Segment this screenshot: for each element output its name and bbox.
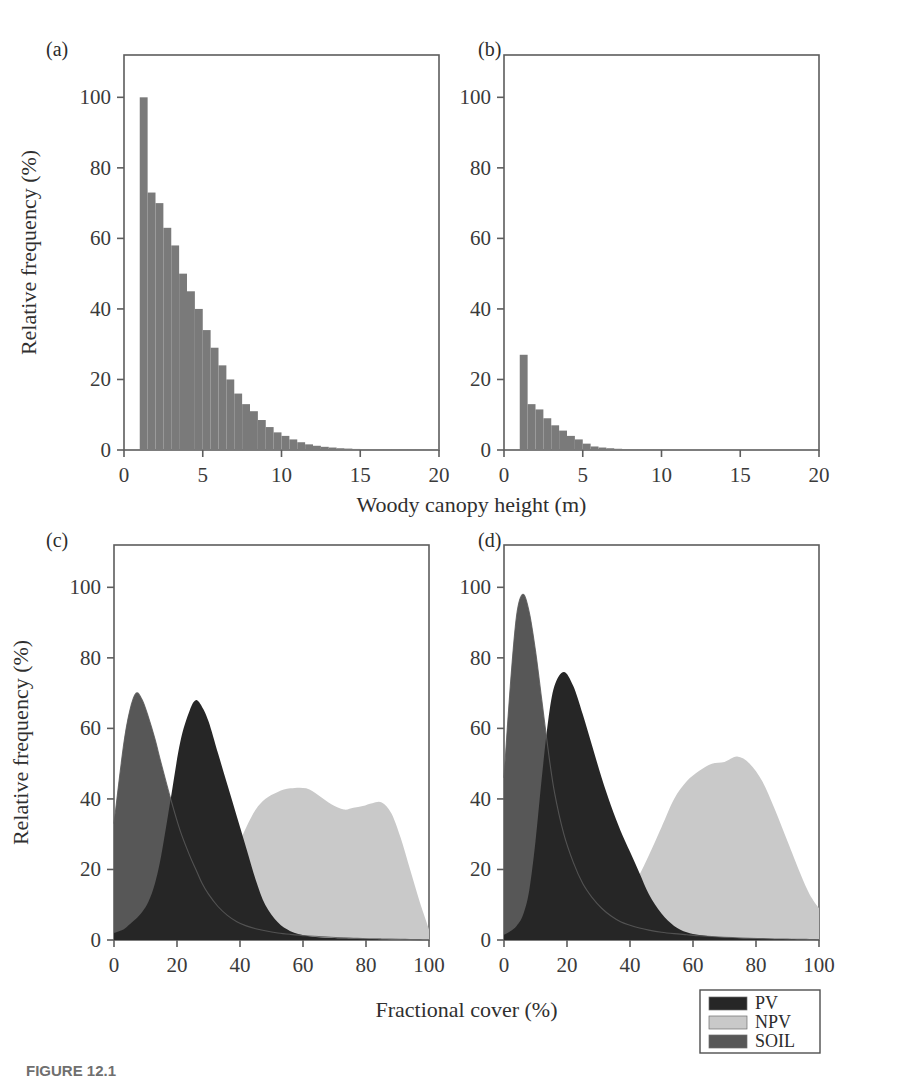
panel-label-c: (c) xyxy=(46,529,68,552)
legend: PVNPVSOIL xyxy=(700,990,820,1053)
histogram-bar xyxy=(536,409,544,450)
panel-label-a: (a) xyxy=(46,38,68,61)
y-tick-label: 0 xyxy=(481,438,492,462)
histogram-bar xyxy=(630,449,638,450)
histogram-bar xyxy=(622,449,630,450)
figure-svg: 02040608010005101520(a)02040608010005101… xyxy=(0,0,924,1078)
histogram-bar xyxy=(360,449,368,450)
y-tick-label: 20 xyxy=(90,367,111,391)
histogram-bar xyxy=(559,431,567,450)
histogram-bar xyxy=(606,448,614,450)
histogram-bar xyxy=(415,449,423,450)
x-tick-label: 80 xyxy=(356,953,377,977)
x-tick-label: 0 xyxy=(499,463,510,487)
histogram-bar xyxy=(305,444,313,450)
histogram-bar xyxy=(384,449,392,450)
x-axis-title-top: Woody canopy height (m) xyxy=(357,492,587,517)
y-tick-label: 20 xyxy=(80,857,101,881)
y-tick-label: 80 xyxy=(470,156,491,180)
histogram-bar xyxy=(258,420,266,450)
y-tick-label: 100 xyxy=(460,575,492,599)
y-tick-label: 100 xyxy=(460,85,492,109)
histogram-bar xyxy=(583,444,591,450)
histogram-bar xyxy=(646,449,654,450)
y-tick-label: 80 xyxy=(470,646,491,670)
histogram-bar xyxy=(274,432,282,450)
histogram-bar xyxy=(140,97,148,450)
y-tick-label: 60 xyxy=(470,716,491,740)
x-tick-label: 5 xyxy=(198,463,209,487)
histogram-bar xyxy=(203,330,211,450)
histogram-bar xyxy=(171,245,179,450)
x-tick-label: 20 xyxy=(429,463,450,487)
y-tick-label: 60 xyxy=(470,226,491,250)
histogram-bar xyxy=(156,203,164,450)
figure-caption: FIGURE 12.1 xyxy=(26,1062,116,1078)
x-tick-label: 20 xyxy=(557,953,578,977)
y-tick-label: 100 xyxy=(80,85,112,109)
y-tick-label: 20 xyxy=(470,857,491,881)
x-tick-label: 20 xyxy=(167,953,188,977)
histogram-bar xyxy=(234,394,242,450)
histogram-bar xyxy=(219,365,227,450)
x-tick-label: 10 xyxy=(651,463,672,487)
histogram-bar xyxy=(211,348,219,450)
y-tick-label: 0 xyxy=(91,928,102,952)
y-tick-label: 40 xyxy=(470,787,491,811)
histogram-bar xyxy=(195,309,203,450)
x-tick-label: 15 xyxy=(350,463,371,487)
y-tick-label: 40 xyxy=(470,297,491,321)
histogram-bar xyxy=(400,449,408,450)
x-tick-label: 5 xyxy=(578,463,589,487)
legend-label-pv: PV xyxy=(755,993,778,1013)
x-tick-label: 0 xyxy=(499,953,510,977)
histogram-bar xyxy=(654,449,662,450)
panel-label-b: (b) xyxy=(478,38,501,61)
y-axis-title-top: Relative frequency (%) xyxy=(16,150,41,355)
histogram-bar xyxy=(376,449,384,450)
histogram-bar xyxy=(543,418,551,450)
histogram-bar xyxy=(242,404,250,450)
histogram-bar xyxy=(368,449,376,450)
histogram-bar xyxy=(179,274,187,450)
histogram-bar xyxy=(250,411,258,450)
y-axis-title-bottom: Relative frequency (%) xyxy=(8,640,33,845)
y-tick-label: 0 xyxy=(481,928,492,952)
histogram-bar xyxy=(575,439,583,450)
legend-label-soil: SOIL xyxy=(755,1031,795,1051)
x-tick-label: 60 xyxy=(293,953,314,977)
y-tick-label: 60 xyxy=(90,226,111,250)
histogram-bar xyxy=(408,449,416,450)
legend-swatch-pv xyxy=(709,997,747,1010)
y-tick-label: 40 xyxy=(90,297,111,321)
histogram-bar xyxy=(329,448,337,450)
histogram-bar xyxy=(345,449,353,450)
histogram-bar xyxy=(289,439,297,450)
histogram-bar xyxy=(551,425,559,450)
figure-container: 02040608010005101520(a)02040608010005101… xyxy=(0,0,924,1078)
x-tick-label: 15 xyxy=(730,463,751,487)
histogram-bar xyxy=(520,355,528,450)
x-axis-title-bottom: Fractional cover (%) xyxy=(375,997,557,1022)
y-tick-label: 80 xyxy=(90,156,111,180)
y-tick-label: 0 xyxy=(101,438,112,462)
histogram-bar xyxy=(226,379,234,450)
histogram-bar xyxy=(662,449,670,450)
x-tick-label: 100 xyxy=(803,953,835,977)
x-tick-label: 80 xyxy=(746,953,767,977)
x-tick-label: 10 xyxy=(271,463,292,487)
histogram-bar xyxy=(431,449,439,450)
histogram-bar xyxy=(392,449,400,450)
x-tick-label: 40 xyxy=(230,953,251,977)
x-tick-label: 0 xyxy=(109,953,120,977)
histogram-bar xyxy=(638,449,646,450)
legend-label-npv: NPV xyxy=(755,1012,791,1032)
panel-label-d: (d) xyxy=(478,529,501,552)
y-tick-label: 40 xyxy=(80,787,101,811)
x-tick-label: 100 xyxy=(413,953,445,977)
histogram-bar xyxy=(321,447,329,450)
histogram-bar xyxy=(567,436,575,450)
legend-swatch-npv xyxy=(709,1016,747,1029)
histogram-bar xyxy=(187,291,195,450)
y-tick-label: 60 xyxy=(80,716,101,740)
